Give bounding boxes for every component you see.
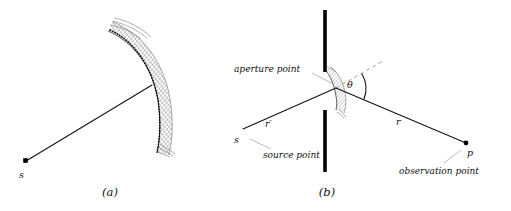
observation-point-marker [464, 141, 469, 146]
incident-ray-r-prime [243, 88, 336, 129]
observation-point-annotation: observation point [399, 166, 479, 176]
outgoing-ray-label: r [396, 116, 402, 127]
observation-point-leader [444, 150, 461, 163]
source-label-b: s [234, 134, 239, 145]
source-point-annotation: source point [263, 150, 320, 160]
figure-container: s (a) [0, 0, 511, 211]
panel-b-caption: (b) [319, 185, 335, 199]
incident-ray-label: r′ [265, 118, 273, 129]
angle-theta-label: θ [347, 79, 353, 90]
theta-angle-arc [362, 74, 366, 99]
source-to-aperture-ray-a [26, 85, 152, 161]
source-marker-a [23, 158, 28, 163]
aperture-point-annotation: aperture point [234, 64, 301, 74]
source-point-leader [250, 139, 271, 149]
source-label-a: s [19, 169, 24, 180]
aperture-band-hatching [95, 12, 190, 167]
curved-aperture-band-a [95, 12, 190, 167]
observation-label-b: p [467, 147, 473, 158]
panel-a: s (a) [19, 12, 190, 199]
normal-dashed-line [336, 61, 383, 88]
panel-a-caption: (a) [102, 185, 118, 199]
diffraction-geometry-figure: s (a) [0, 0, 511, 211]
panel-b: r′ r θ s p aperture point source point o… [234, 10, 479, 199]
outgoing-ray-r [336, 88, 466, 143]
